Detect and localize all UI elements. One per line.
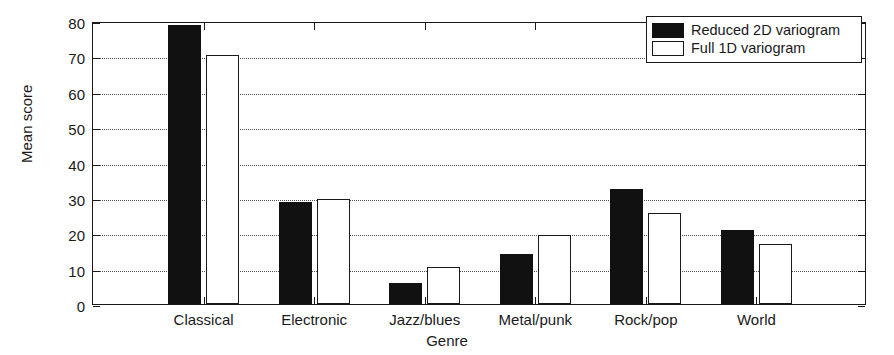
y-tick-label: 30 — [68, 192, 85, 207]
y-tick-label: 70 — [68, 51, 85, 66]
x-tick-label: Jazz/blues — [389, 311, 460, 328]
y-tick-mark — [858, 235, 865, 236]
bar-classical-series-0 — [168, 25, 201, 304]
y-tick-mark — [93, 23, 100, 24]
x-tick-mark — [646, 297, 647, 304]
bar-classical-series-1 — [206, 55, 239, 304]
x-axis-title: Genre — [0, 332, 894, 349]
x-tick-mark — [535, 297, 536, 304]
bar-rock-pop-series-1 — [648, 213, 681, 304]
y-tick-mark — [93, 94, 100, 95]
y-tick-mark — [93, 271, 100, 272]
y-tick-mark — [858, 165, 865, 166]
y-tick-mark — [93, 235, 100, 236]
y-tick-mark — [858, 129, 865, 130]
x-tick-mark — [314, 23, 315, 30]
x-tick-label: World — [737, 311, 776, 328]
y-tick-mark — [93, 306, 100, 307]
bar-world-series-0 — [721, 230, 754, 304]
x-tick-mark — [756, 297, 757, 304]
y-tick-label: 0 — [77, 299, 85, 314]
x-tick-mark — [535, 23, 536, 30]
y-axis-title: Mean score — [18, 85, 35, 163]
bar-electronic-series-1 — [317, 199, 350, 304]
bar-electronic-series-0 — [279, 202, 312, 304]
bar-jazz-blues-series-1 — [427, 267, 460, 304]
bar-metal-punk-series-1 — [538, 235, 571, 304]
x-tick-mark — [425, 23, 426, 30]
y-tick-mark — [93, 165, 100, 166]
y-tick-label: 80 — [68, 16, 85, 31]
y-tick-label: 20 — [68, 228, 85, 243]
bar-world-series-1 — [759, 244, 792, 304]
y-tick-label: 60 — [68, 86, 85, 101]
x-tick-label: Rock/pop — [614, 311, 677, 328]
bar-chart-figure: Mean score 01020304050607080 ClassicalEl… — [0, 0, 894, 355]
y-tick-mark — [858, 200, 865, 201]
x-tick-label: Classical — [174, 311, 234, 328]
plot-area: 01020304050607080 ClassicalElectronicJaz… — [92, 22, 866, 305]
bar-rock-pop-series-0 — [610, 189, 643, 304]
x-tick-label: Electronic — [281, 311, 347, 328]
x-tick-label: Metal/punk — [499, 311, 572, 328]
y-tick-mark — [93, 200, 100, 201]
legend-swatch-full-1d — [652, 41, 684, 56]
y-tick-mark — [858, 271, 865, 272]
y-tick-mark — [858, 306, 865, 307]
bar-jazz-blues-series-0 — [389, 283, 422, 304]
y-tick-mark — [93, 129, 100, 130]
legend-label-full-1d: Full 1D variogram — [691, 41, 805, 56]
legend-item-reduced-2d: Reduced 2D variogram — [652, 21, 856, 39]
legend-swatch-reduced-2d — [652, 23, 684, 38]
y-tick-label: 50 — [68, 122, 85, 137]
chart-legend: Reduced 2D variogram Full 1D variogram — [646, 16, 862, 63]
x-tick-mark — [314, 297, 315, 304]
x-tick-mark — [204, 297, 205, 304]
bar-metal-punk-series-0 — [500, 254, 533, 304]
legend-item-full-1d: Full 1D variogram — [652, 39, 856, 57]
y-tick-label: 40 — [68, 157, 85, 172]
y-tick-mark — [858, 94, 865, 95]
y-tick-mark — [93, 58, 100, 59]
x-tick-mark — [204, 23, 205, 30]
x-tick-mark — [425, 297, 426, 304]
y-tick-label: 10 — [68, 263, 85, 278]
legend-label-reduced-2d: Reduced 2D variogram — [691, 23, 840, 38]
